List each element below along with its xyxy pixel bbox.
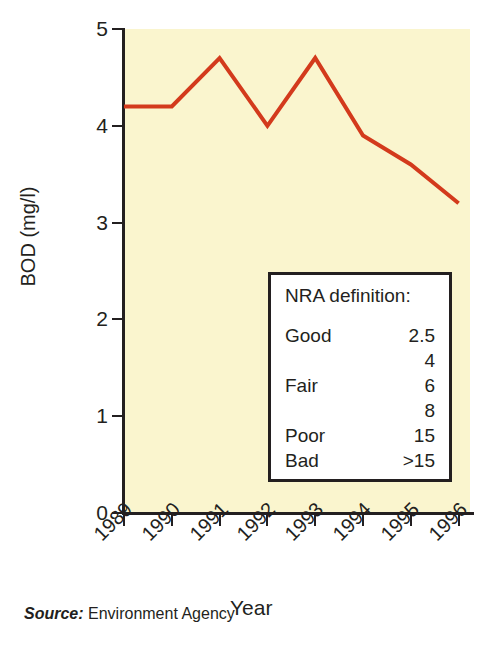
y-axis-tick-label-wrap: 1 xyxy=(78,405,108,426)
legend-row: Poor15 xyxy=(285,423,435,448)
x-axis-title: Year xyxy=(230,596,272,620)
legend-row: 8 xyxy=(285,398,435,423)
legend-title: NRA definition: xyxy=(285,285,435,307)
y-axis-title: BOD (mg/l) xyxy=(17,167,40,307)
legend-row: Bad>15 xyxy=(285,448,435,473)
legend-row-label: Bad xyxy=(285,448,319,473)
y-axis-line xyxy=(122,28,125,515)
legend-row-value: 15 xyxy=(393,423,435,448)
y-axis-tick-label-wrap: 2 xyxy=(78,308,108,329)
legend-row-value: 2.5 xyxy=(393,323,435,348)
y-axis-tick-label-wrap: 4 xyxy=(78,115,108,136)
legend-row-value: 6 xyxy=(393,373,435,398)
legend-row: 4 xyxy=(285,348,435,373)
legend-row-label: Good xyxy=(285,323,331,348)
y-axis-tick-label: 5 xyxy=(82,18,108,39)
legend-row-value: 8 xyxy=(393,398,435,423)
y-axis-tick xyxy=(112,318,123,320)
legend-row: Fair6 xyxy=(285,373,435,398)
legend-row-label: Poor xyxy=(285,423,325,448)
y-axis-tick xyxy=(112,222,123,224)
source-caption: Source: Environment Agency xyxy=(24,605,235,623)
y-axis-tick xyxy=(112,415,123,417)
y-axis-tick-label: 4 xyxy=(82,115,108,136)
y-axis-tick xyxy=(112,125,123,127)
legend-rows: Good2.54Fair68Poor15Bad>15 xyxy=(285,323,435,473)
chart-figure: 543210 19891990199119921993199419951996 … xyxy=(0,0,501,645)
legend-row-value: >15 xyxy=(393,448,435,473)
source-label: Source: xyxy=(24,605,84,622)
legend-row: Good2.5 xyxy=(285,323,435,348)
y-axis-tick xyxy=(112,28,123,30)
legend-row-label: Fair xyxy=(285,373,318,398)
legend-nra-definition: NRA definition: Good2.54Fair68Poor15Bad>… xyxy=(268,272,452,482)
y-axis-tick-label-wrap: 3 xyxy=(78,212,108,233)
legend-row-value: 4 xyxy=(393,348,435,373)
y-axis-tick-label-wrap: 5 xyxy=(78,18,108,39)
y-axis-tick-label: 1 xyxy=(82,405,108,426)
source-text: Environment Agency xyxy=(84,605,235,622)
y-axis-tick-label: 3 xyxy=(82,212,108,233)
y-axis-tick-label: 2 xyxy=(82,308,108,329)
